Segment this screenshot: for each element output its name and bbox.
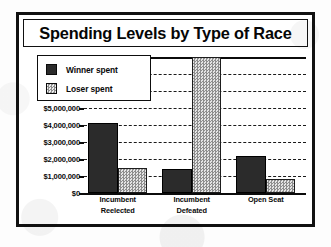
legend-swatch-loser-icon	[46, 83, 57, 94]
legend-label-loser: Loser spent	[66, 84, 112, 94]
y-axis-tick-mark	[79, 159, 84, 161]
bar-loser	[192, 57, 221, 193]
x-axis-category-label: IncumbentReelected	[82, 195, 154, 216]
bar-loser	[118, 168, 147, 194]
x-axis-category-line: Defeated	[156, 206, 228, 217]
bar-loser	[266, 179, 295, 193]
y-axis-tick-label: $5,000,000	[43, 104, 80, 113]
x-axis-category-line: Incumbent	[156, 195, 228, 206]
y-axis-tick-mark	[79, 108, 84, 110]
y-axis-tick-mark	[79, 176, 84, 178]
y-axis-tick-label: $1,000,000	[43, 172, 80, 181]
chart-title-box: Spending Levels by Type of Race	[23, 19, 308, 47]
y-axis-tick-mark	[79, 125, 84, 127]
y-axis-tick-label: $3,000,000	[43, 138, 80, 147]
legend-item-loser: Loser spent	[46, 79, 150, 98]
x-axis-category-label: IncumbentDefeated	[156, 195, 228, 216]
legend-label-winner: Winner spent	[66, 65, 118, 75]
bar-winner	[88, 123, 117, 193]
chart-title: Spending Levels by Type of Race	[39, 24, 291, 43]
gridline	[84, 193, 306, 195]
bar-winner	[162, 169, 191, 193]
x-axis-category-line: Incumbent	[82, 195, 154, 206]
y-axis-tick-label: $4,000,000	[43, 121, 80, 130]
chart-page: Spending Levels by Type of Race $0$1,000…	[0, 0, 331, 247]
y-axis-tick-label: $2,000,000	[43, 155, 80, 164]
legend-swatch-winner-icon	[46, 64, 57, 75]
bar-winner	[236, 156, 265, 193]
y-axis-tick-mark	[79, 142, 84, 144]
legend-item-winner: Winner spent	[46, 60, 150, 79]
x-axis-category-line: Open Seat	[230, 195, 302, 206]
x-axis-category-line: Reelected	[82, 206, 154, 217]
x-axis-category-label: Open Seat	[230, 195, 302, 206]
plot-region: $0$1,000,000$2,000,000$3,000,000$4,000,0…	[23, 51, 308, 222]
x-axis: IncumbentReelectedIncumbentDefeatedOpen …	[84, 195, 306, 225]
chart-legend: Winner spent Loser spent	[37, 55, 151, 101]
chart-frame: Spending Levels by Type of Race $0$1,000…	[16, 12, 315, 227]
